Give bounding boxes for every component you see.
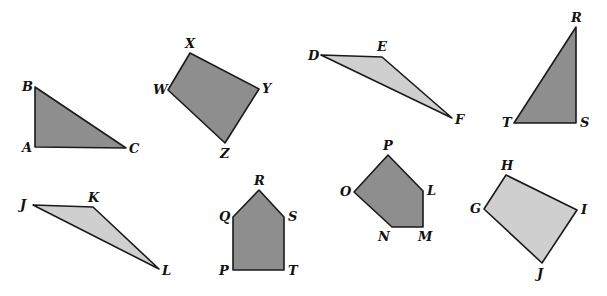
vertex-label: J	[17, 197, 27, 212]
quadrilateral-ghij: HGIJ	[470, 158, 588, 281]
vertex-label: D	[307, 48, 320, 63]
vertex-label: P	[382, 138, 394, 153]
triangle-jkl-polygon	[33, 205, 159, 269]
triangle-jkl: JKL	[17, 190, 171, 278]
vertex-label: M	[417, 229, 433, 244]
vertex-label: T	[502, 115, 513, 130]
quadrilateral-ghij-polygon	[484, 175, 577, 263]
vertex-label: Y	[262, 81, 273, 96]
vertex-label: W	[153, 82, 169, 97]
quadrilateral-wxyz: XWYZ	[153, 36, 273, 161]
vertex-label: L	[426, 183, 436, 198]
vertex-label: S	[288, 209, 297, 224]
vertex-label: G	[470, 201, 481, 216]
vertex-label: F	[454, 112, 465, 127]
vertex-label: R	[253, 173, 265, 188]
vertex-label: O	[340, 184, 352, 199]
vertex-label: Z	[219, 146, 230, 161]
vertex-label: I	[580, 202, 588, 217]
vertex-label: L	[161, 263, 171, 278]
geometry-figure: BACXWYZDEFRTSJKLRQSPTPOLNMHGIJ	[0, 0, 607, 296]
vertex-label: E	[376, 39, 388, 54]
vertex-label: A	[20, 140, 32, 155]
triangle-rst: RTS	[502, 10, 589, 130]
vertex-label: C	[129, 141, 140, 156]
vertex-label: T	[288, 263, 299, 278]
polygons-diagram: BACXWYZDEFRTSJKLRQSPTPOLNMHGIJ	[0, 0, 607, 296]
vertex-label: H	[500, 158, 514, 173]
triangle-def: DEF	[307, 39, 465, 127]
vertex-label: K	[87, 190, 100, 205]
triangle-abc-polygon	[35, 87, 126, 148]
vertex-label: R	[570, 10, 582, 25]
pentagon-lmnop-polygon	[354, 155, 423, 227]
triangle-abc: BAC	[20, 79, 140, 156]
vertex-label: P	[218, 263, 230, 278]
pentagon-pqrst-polygon	[233, 190, 284, 270]
vertex-label: B	[21, 79, 33, 94]
pentagon-pqrst: RQSPT	[218, 173, 299, 278]
vertex-label: S	[580, 115, 589, 130]
vertex-label: J	[534, 266, 544, 281]
quadrilateral-wxyz-polygon	[168, 53, 259, 143]
vertex-label: X	[184, 36, 196, 51]
vertex-label: Q	[219, 209, 231, 224]
vertex-label: N	[377, 229, 391, 244]
triangle-def-polygon	[321, 55, 452, 118]
pentagon-lmnop: POLNM	[340, 138, 436, 244]
triangle-rst-polygon	[514, 27, 576, 123]
